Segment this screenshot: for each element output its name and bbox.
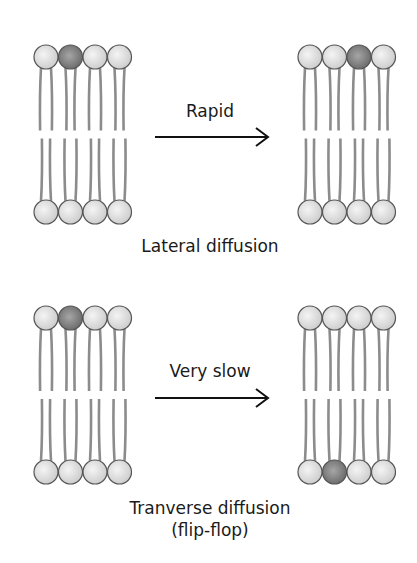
fatty-acid-tail [115, 68, 116, 131]
phospholipid-head [34, 306, 58, 330]
phospholipid-head [298, 306, 322, 330]
fatty-acid-tail [340, 139, 341, 202]
fatty-acid-tail [50, 139, 51, 202]
labeled-phospholipid-head [59, 306, 83, 330]
fatty-acid-tail [115, 329, 116, 391]
fatty-acid-tail [354, 399, 355, 461]
fatty-acid-tail [74, 68, 75, 131]
fatty-acid-tail [338, 329, 339, 391]
fatty-acid-tail [51, 68, 52, 131]
fatty-acid-tail [90, 399, 91, 461]
fatty-acid-tail [123, 68, 124, 131]
fatty-acid-tail [315, 68, 316, 131]
fatty-acid-tail [353, 68, 354, 131]
phospholipid-head [83, 200, 107, 224]
arrow-label-rapid: Rapid [150, 101, 270, 121]
fatty-acid-tail [363, 399, 364, 461]
phospholipid-head [108, 45, 132, 69]
caption-line-1: Tranverse diffusion [90, 497, 330, 519]
phospholipid-head [108, 460, 132, 484]
phospholipid-head [108, 200, 132, 224]
fatty-acid-tail [90, 139, 91, 202]
fatty-acid-tail [89, 68, 90, 131]
phospholipid-head [34, 200, 58, 224]
phospholipid-head [372, 306, 396, 330]
phospholipid-head [372, 45, 396, 69]
fatty-acid-tail [89, 329, 90, 391]
fatty-acid-tail [328, 399, 329, 461]
bilayer-lateral-after [298, 45, 396, 224]
phospholipid-head [323, 45, 347, 69]
bilayer-transverse-before [34, 306, 132, 484]
fatty-acid-tail [40, 329, 41, 391]
phospholipid-head [59, 200, 83, 224]
fatty-acid-tail [364, 68, 365, 131]
fatty-acid-tail [76, 139, 77, 202]
fatty-acid-tail [314, 399, 315, 461]
arrow-rapid [155, 128, 268, 146]
membrane-diffusion-diagram [0, 0, 417, 563]
fatty-acid-tail [363, 139, 364, 202]
fatty-acid-tail [330, 329, 331, 391]
fatty-acid-tail [41, 399, 42, 461]
fatty-acid-tail [377, 399, 378, 461]
fatty-acid-tail [74, 329, 75, 391]
arrow-very-slow [155, 389, 268, 407]
fatty-acid-tail [66, 329, 67, 391]
fatty-acid-tail [328, 139, 329, 202]
fatty-acid-tail [304, 329, 305, 391]
caption-lateral-diffusion: Lateral diffusion [100, 236, 320, 256]
fatty-acid-tail [364, 329, 365, 391]
caption-transverse-diffusion: Tranverse diffusion (flip-flop) [90, 497, 330, 541]
phospholipid-head [347, 460, 371, 484]
phospholipid-head [298, 45, 322, 69]
fatty-acid-tail [389, 399, 390, 461]
fatty-acid-tail [125, 399, 126, 461]
fatty-acid-tail [304, 68, 305, 131]
labeled-phospholipid-head [59, 45, 83, 69]
fatty-acid-tail [99, 399, 100, 461]
fatty-acid-tail [314, 139, 315, 202]
fatty-acid-tail [315, 329, 316, 391]
phospholipid-head [34, 45, 58, 69]
phospholipid-head [83, 306, 107, 330]
fatty-acid-tail [330, 68, 331, 131]
fatty-acid-tail [51, 329, 52, 391]
fatty-acid-tail [389, 139, 390, 202]
fatty-acid-tail [113, 139, 114, 202]
caption-line-2: (flip-flop) [90, 519, 330, 541]
phospholipid-head [59, 460, 83, 484]
fatty-acid-tail [305, 399, 306, 461]
fatty-acid-tail [125, 139, 126, 202]
fatty-acid-tail [387, 329, 388, 391]
labeled-phospholipid-head [323, 460, 347, 484]
fatty-acid-tail [353, 329, 354, 391]
fatty-acid-tail [123, 329, 124, 391]
fatty-acid-tail [113, 399, 114, 461]
phospholipid-head [83, 460, 107, 484]
fatty-acid-tail [379, 68, 380, 131]
phospholipid-head [347, 200, 371, 224]
bilayer-transverse-after [298, 306, 396, 484]
fatty-acid-tail [379, 329, 380, 391]
phospholipid-head [323, 200, 347, 224]
fatty-acid-tail [387, 68, 388, 131]
phospholipid-head [372, 460, 396, 484]
fatty-acid-tail [99, 139, 100, 202]
bilayer-lateral-before [34, 45, 132, 224]
fatty-acid-tail [377, 139, 378, 202]
fatty-acid-tail [50, 399, 51, 461]
phospholipid-head [347, 306, 371, 330]
fatty-acid-tail [340, 399, 341, 461]
fatty-acid-tail [354, 139, 355, 202]
fatty-acid-tail [64, 399, 65, 461]
phospholipid-head [34, 460, 58, 484]
phospholipid-head [108, 306, 132, 330]
fatty-acid-tail [41, 139, 42, 202]
phospholipid-head [323, 306, 347, 330]
fatty-acid-tail [338, 68, 339, 131]
arrow-label-very-slow: Very slow [150, 361, 270, 381]
fatty-acid-tail [100, 329, 101, 391]
fatty-acid-tail [40, 68, 41, 131]
phospholipid-head [298, 460, 322, 484]
